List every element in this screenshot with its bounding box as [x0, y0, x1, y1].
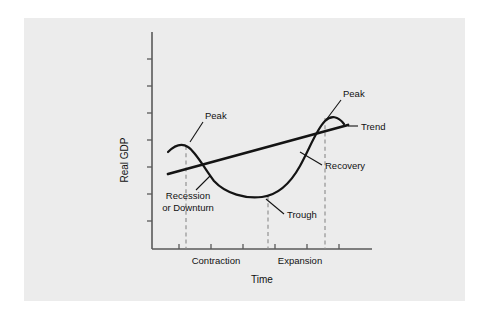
phase-label-contraction: Contraction: [192, 255, 241, 266]
leader-trough: [266, 199, 284, 214]
axes-group: [152, 32, 372, 249]
business-cycle-chart: Real GDP Time Peak Recession or Downturn…: [0, 0, 487, 323]
business-cycle-figure: Real GDP Time Peak Recession or Downturn…: [0, 0, 487, 323]
annotation-recession-line2: or Downturn: [162, 202, 214, 213]
annotation-peak-first: Peak: [205, 110, 227, 121]
leader-recession: [196, 176, 210, 190]
y-axis-label: Real GDP: [119, 137, 130, 182]
annotation-trend: Trend: [361, 121, 385, 132]
phase-label-expansion: Expansion: [278, 255, 322, 266]
leader-peak-first: [190, 122, 203, 142]
annotation-trough: Trough: [287, 209, 317, 220]
trend-line: [168, 125, 348, 174]
annotation-recession-line1: Recession: [166, 190, 210, 201]
annotation-recovery: Recovery: [325, 160, 365, 171]
x-axis-label: Time: [251, 274, 273, 285]
real-gdp-cycle-curve: [168, 117, 344, 197]
annotation-peak-second: Peak: [343, 88, 365, 99]
